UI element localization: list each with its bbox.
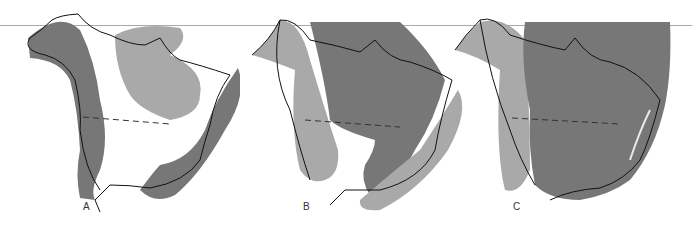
map-c-graphic [450,0,690,229]
panel-label-b: B [303,201,310,212]
map-b-graphic [230,0,470,229]
map-panel-c: C [450,0,690,229]
panel-label-c: C [513,201,520,212]
map-panel-b: B [230,0,470,229]
map-a-graphic [0,0,240,229]
panel-label-a: A [83,201,90,212]
map-panel-a: A [0,0,240,229]
